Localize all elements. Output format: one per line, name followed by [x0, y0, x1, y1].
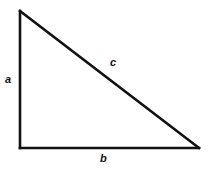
right-triangle-graphic — [0, 0, 210, 176]
triangle-diagram: a c b — [0, 0, 210, 176]
label-side-b: b — [100, 153, 107, 164]
label-side-a: a — [5, 74, 11, 85]
triangle-side-c-line — [20, 11, 199, 148]
label-side-c: c — [110, 57, 116, 68]
